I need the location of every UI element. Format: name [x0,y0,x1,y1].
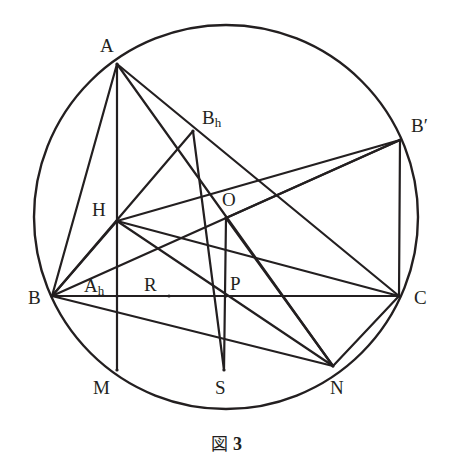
segment-H-C [117,221,399,296]
vertex-dot-H [115,219,118,222]
vertex-dot-O [224,216,227,219]
point-label-text-C: C [414,287,427,308]
point-label-text-P: P [230,273,241,294]
caption-label: 図 [211,435,229,454]
geometry-canvas [0,0,454,475]
vertex-dot-Bh [191,129,194,132]
point-label-B: B [28,288,41,307]
point-label-text-Ah: A [84,275,98,296]
point-label-text-N: N [330,377,344,398]
geometry-figure: ABCB′OHBhAhRPMSN 図3 [0,0,454,475]
segment-Bprime-C [399,140,400,296]
point-label-text-O: O [222,189,236,210]
point-label-M: M [93,378,110,397]
point-label-R: R [144,275,157,294]
vertex-dot-A [115,62,118,65]
point-label-text-A: A [100,35,114,56]
point-label-C: C [414,288,427,307]
point-label-N: N [330,378,344,397]
point-label-P: P [230,274,241,293]
vertex-dot-P [224,294,227,297]
vertex-dot-Ah [115,294,118,297]
vertex-dot-C [397,294,400,297]
segment-H-Bprime [117,140,400,221]
vertex-dot-B [50,294,53,297]
point-label-A: A [100,36,114,55]
point-label-Ah: Ah [84,276,104,295]
point-label-subscript-Bh: h [215,115,222,130]
point-label-O: O [222,190,236,209]
point-label-Bh: Bh [202,108,221,127]
point-label-text-S: S [215,377,226,398]
segment-O-Bprime [226,140,400,218]
vertex-dot-R [167,294,170,297]
point-label-H: H [92,200,106,219]
vertex-dot-N [331,364,334,367]
vertex-dot-M [115,368,118,371]
point-label-text-R: R [144,274,157,295]
figure-caption: 図3 [0,430,454,455]
point-label-text-Bp: B [411,115,424,136]
segment-O-S [224,218,226,370]
point-label-text-H: H [92,199,106,220]
point-label-subscript-Ah: h [98,283,105,298]
point-label-S: S [215,378,226,397]
segment-A-B [52,64,117,296]
point-label-Bp: B′ [411,116,428,135]
caption-number: 3 [233,434,243,454]
point-label-text-Bh: B [202,107,215,128]
segment-C-N [333,296,399,366]
point-label-text-M: M [93,377,110,398]
point-label-prime-Bp: ′ [424,115,428,136]
vertex-dot-S [222,368,225,371]
vertex-dot-Bp [398,138,401,141]
point-label-text-B: B [28,287,41,308]
